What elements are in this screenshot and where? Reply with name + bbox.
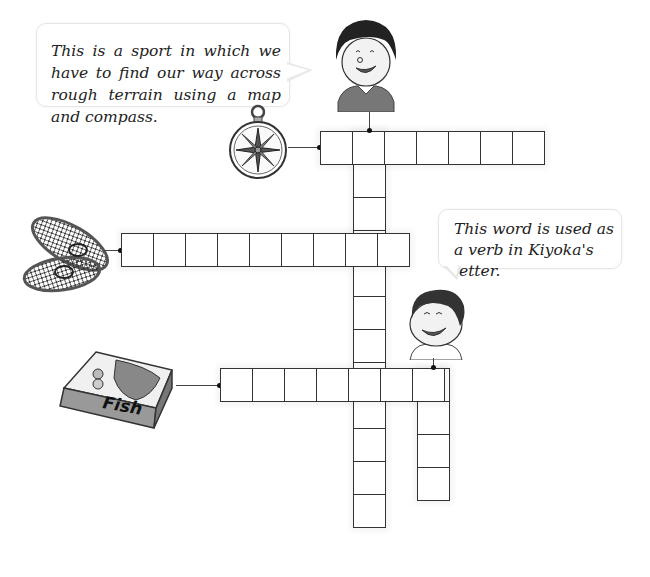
crossword-cell[interactable]	[249, 233, 282, 267]
crossword-cell[interactable]	[353, 428, 386, 462]
fish-box-icon: Fish 8 pieces	[56, 348, 176, 438]
crossword-cell[interactable]	[384, 131, 417, 165]
crossword-cell[interactable]	[353, 164, 386, 198]
crossword-cell[interactable]	[353, 197, 386, 231]
crossword-cell[interactable]	[448, 131, 481, 165]
crossword-cell[interactable]	[380, 368, 413, 402]
crossword-cell[interactable]	[417, 434, 450, 468]
crossword-cell[interactable]	[353, 263, 386, 297]
crossword-cell[interactable]	[121, 233, 154, 267]
crossword-cell[interactable]	[345, 233, 378, 267]
crossword-cell[interactable]	[377, 233, 410, 267]
connector-dot	[367, 128, 372, 133]
crossword-across-2	[121, 233, 410, 267]
connector-dot	[431, 365, 436, 370]
compass-icon	[228, 104, 288, 184]
crossword-down-1	[353, 131, 386, 528]
crossword-cell[interactable]	[353, 494, 386, 528]
crossword-cell[interactable]	[220, 368, 253, 402]
crossword-cell[interactable]	[353, 296, 386, 330]
snowshoes-icon	[22, 214, 114, 298]
crossword-cell[interactable]	[352, 131, 385, 165]
crossword-cell[interactable]	[316, 368, 349, 402]
crossword-across-1	[320, 131, 545, 165]
crossword-cell[interactable]	[353, 461, 386, 495]
connector-line	[176, 385, 220, 386]
clue-text-verb: This word is used as a verb in Kiyoka's …	[454, 219, 614, 282]
crossword-cell[interactable]	[512, 131, 545, 165]
crossword-cell[interactable]	[416, 131, 449, 165]
crossword-across-3	[220, 368, 445, 402]
crossword-cell[interactable]	[320, 131, 353, 165]
boy-character-icon	[402, 284, 468, 360]
girl-character-icon	[330, 12, 402, 112]
connector-line	[288, 147, 320, 148]
crossword-cell[interactable]	[284, 368, 317, 402]
crossword-cell[interactable]	[153, 233, 186, 267]
crossword-cell[interactable]	[252, 368, 285, 402]
crossword-cell[interactable]	[480, 131, 513, 165]
crossword-cell[interactable]	[185, 233, 218, 267]
crossword-cell[interactable]	[348, 368, 381, 402]
speech-bubble-orienteering: This is a sport in which we have to find…	[36, 23, 290, 107]
crossword-cell[interactable]	[353, 329, 386, 363]
crossword-cell[interactable]	[417, 401, 450, 435]
crossword-cell[interactable]	[313, 233, 346, 267]
crossword-cell[interactable]	[412, 368, 445, 402]
crossword-cell[interactable]	[417, 467, 450, 501]
crossword-cell[interactable]	[217, 233, 250, 267]
crossword-cell[interactable]	[281, 233, 314, 267]
speech-bubble-verb: This word is used as a verb in Kiyoka's …	[438, 209, 622, 269]
